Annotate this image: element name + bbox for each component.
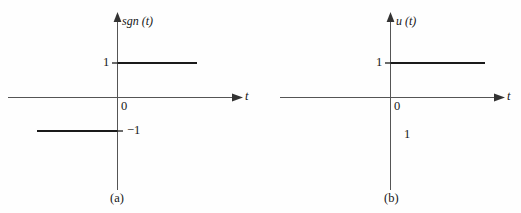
ustep-plot-svg: [260, 0, 521, 213]
x-axis-arrow-icon: [232, 94, 243, 102]
value-label-plus-one: 1: [376, 56, 382, 69]
value-label-minus-one: −1: [127, 124, 140, 137]
panel-caption-b: (b): [384, 191, 399, 206]
x-axis-label-t: t: [507, 90, 510, 103]
value-label-plus-one: 1: [103, 56, 109, 69]
y-axis-label-sgn: sgn (t): [122, 15, 153, 28]
y-axis-arrow-icon: [114, 12, 122, 22]
origin-label: 0: [394, 100, 400, 113]
figure-container: sgn (t) t 0 1 −1 (a) u (t) t 0 1 1 (b): [0, 0, 521, 213]
origin-label: 0: [121, 100, 127, 113]
y-axis-arrow-icon: [387, 12, 395, 22]
panel-unit-step: u (t) t 0 1 1 (b): [260, 0, 521, 213]
x-axis-arrow-icon: [494, 94, 505, 102]
panel-sgn: sgn (t) t 0 1 −1 (a): [0, 0, 260, 213]
x-axis-label-t: t: [245, 90, 248, 103]
value-label-stray-one: 1: [404, 128, 410, 141]
sgn-plot-svg: [0, 0, 260, 213]
y-axis-label-u: u (t): [396, 15, 416, 28]
panel-caption-a: (a): [110, 191, 124, 206]
